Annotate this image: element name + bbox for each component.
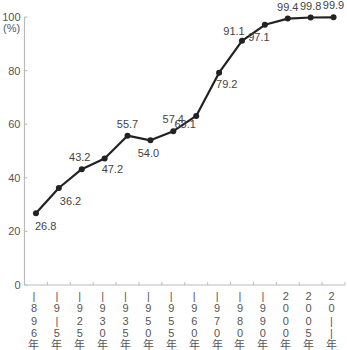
svg-text:|: | <box>193 290 196 302</box>
svg-text:年: 年 <box>234 338 245 350</box>
svg-text:0: 0 <box>283 315 289 327</box>
svg-text:9: 9 <box>54 302 60 314</box>
x-tick-label: |980年 <box>234 290 245 350</box>
svg-text:|: | <box>216 290 219 302</box>
svg-text:0: 0 <box>191 327 197 339</box>
svg-text:5: 5 <box>145 315 151 327</box>
data-label: 97.1 <box>248 31 269 43</box>
data-point <box>285 16 291 22</box>
svg-text:0: 0 <box>145 327 151 339</box>
data-label: 54.0 <box>138 147 159 159</box>
y-axis-unit-label: (%) <box>3 22 20 34</box>
svg-text:|: | <box>101 290 104 302</box>
svg-text:年: 年 <box>143 338 154 350</box>
data-point <box>308 15 314 21</box>
data-label: 79.2 <box>216 78 237 90</box>
svg-text:8: 8 <box>31 302 37 314</box>
x-tick-label: 2005年 <box>303 290 314 350</box>
data-label: 26.8 <box>35 220 56 232</box>
x-tick-label: 2000年 <box>280 290 291 350</box>
svg-text:0: 0 <box>260 327 266 339</box>
svg-text:年: 年 <box>28 338 39 350</box>
svg-text:|: | <box>124 290 127 302</box>
x-tick-label: |9|5年 <box>51 290 62 350</box>
svg-text:年: 年 <box>166 338 177 350</box>
data-label: 36.2 <box>60 195 81 207</box>
svg-text:|: | <box>261 290 264 302</box>
x-tick-label: |990年 <box>257 290 268 350</box>
svg-text:0: 0 <box>214 327 220 339</box>
y-tick-label: 40 <box>8 172 20 184</box>
data-label: 99.4 <box>277 1 298 13</box>
svg-text:3: 3 <box>122 315 128 327</box>
svg-text:年: 年 <box>280 338 291 350</box>
x-tick-label: |935年 <box>120 290 131 350</box>
svg-text:5: 5 <box>168 327 174 339</box>
svg-text:0: 0 <box>237 327 243 339</box>
svg-text:|: | <box>170 290 173 302</box>
svg-text:0: 0 <box>283 302 289 314</box>
data-series <box>33 14 337 216</box>
x-tick-label: |896年 <box>28 290 39 350</box>
x-tick-label: |930年 <box>97 290 108 350</box>
series-line <box>36 17 334 213</box>
y-tick-label: 60 <box>8 118 20 130</box>
svg-text:6: 6 <box>191 315 197 327</box>
svg-text:0: 0 <box>100 327 106 339</box>
svg-text:9: 9 <box>260 302 266 314</box>
x-tick-label: |970年 <box>212 290 223 350</box>
svg-text:|: | <box>330 315 333 327</box>
line-chart: 020406080100 |896年|9|5年|925年|930年|935年|9… <box>0 0 347 350</box>
svg-text:2: 2 <box>328 290 334 302</box>
svg-text:9: 9 <box>100 302 106 314</box>
y-axis: 020406080100 <box>2 11 27 291</box>
svg-text:年: 年 <box>74 338 85 350</box>
data-point <box>147 137 153 143</box>
svg-text:年: 年 <box>212 338 223 350</box>
data-point <box>262 22 268 28</box>
x-tick-label: 20||年 <box>326 290 337 350</box>
svg-text:|: | <box>147 290 150 302</box>
x-tick-label: |955年 <box>166 290 177 350</box>
svg-text:5: 5 <box>306 327 312 339</box>
svg-text:|: | <box>330 327 333 339</box>
svg-text:2: 2 <box>306 290 312 302</box>
svg-text:5: 5 <box>168 315 174 327</box>
svg-text:0: 0 <box>283 327 289 339</box>
svg-text:6: 6 <box>31 327 37 339</box>
data-label: 55.7 <box>117 118 138 130</box>
svg-text:0: 0 <box>306 302 312 314</box>
data-label: 99.8 <box>300 0 321 12</box>
svg-text:3: 3 <box>100 315 106 327</box>
data-point <box>79 166 85 172</box>
svg-text:|: | <box>239 290 242 302</box>
svg-text:2: 2 <box>77 315 83 327</box>
data-point <box>239 38 245 44</box>
data-point <box>33 210 39 216</box>
svg-text:|: | <box>33 290 36 302</box>
svg-text:|: | <box>55 290 58 302</box>
svg-text:9: 9 <box>145 302 151 314</box>
svg-text:5: 5 <box>54 327 60 339</box>
svg-text:0: 0 <box>328 302 334 314</box>
svg-text:2: 2 <box>283 290 289 302</box>
svg-text:5: 5 <box>77 327 83 339</box>
svg-text:8: 8 <box>237 315 243 327</box>
svg-text:9: 9 <box>122 302 128 314</box>
svg-text:7: 7 <box>214 315 220 327</box>
svg-text:5: 5 <box>122 327 128 339</box>
svg-text:|: | <box>55 315 58 327</box>
x-tick-label: |925年 <box>74 290 85 350</box>
x-tick-label: |950年 <box>143 290 154 350</box>
svg-text:|: | <box>78 290 81 302</box>
svg-text:年: 年 <box>189 338 200 350</box>
svg-text:9: 9 <box>260 315 266 327</box>
data-point <box>331 14 337 20</box>
svg-text:9: 9 <box>237 302 243 314</box>
svg-text:年: 年 <box>326 338 337 350</box>
y-tick-label: 80 <box>8 65 20 77</box>
x-tick-label: |960年 <box>189 290 200 350</box>
y-tick-label: 20 <box>8 225 20 237</box>
svg-text:9: 9 <box>168 302 174 314</box>
data-point <box>216 70 222 76</box>
